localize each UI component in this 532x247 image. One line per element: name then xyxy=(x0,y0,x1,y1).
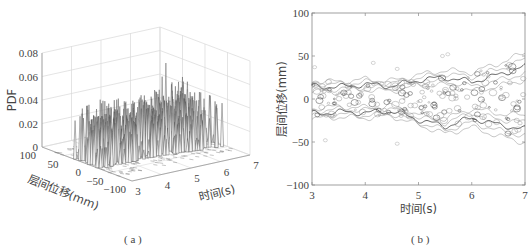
x-tick: 3 xyxy=(309,189,315,201)
z-tick: 0.04 xyxy=(19,94,39,106)
z-axis-label: PDF xyxy=(5,89,19,111)
x-tick: 3 xyxy=(135,185,141,197)
axes: 34567100500−50−100 xyxy=(286,7,528,201)
caption-a: ( a ) xyxy=(124,233,142,245)
z-tick: 0.06 xyxy=(19,71,39,83)
x-axis-label: 时间(s) xyxy=(197,182,236,205)
y-tick: −100 xyxy=(103,183,126,195)
x-tick: 7 xyxy=(253,159,259,171)
x-tick: 4 xyxy=(363,189,369,201)
figure-a-3d-surface: 00.020.040.060.08100500−50−10034567PDF层间… xyxy=(0,0,270,247)
y-tick: −100 xyxy=(286,179,309,191)
z-tick: 0.02 xyxy=(19,118,38,130)
x-tick: 5 xyxy=(416,189,422,201)
x-tick: 6 xyxy=(469,189,475,201)
x-tick: 6 xyxy=(224,166,230,178)
y-tick: 50 xyxy=(298,50,310,62)
y-tick: 0 xyxy=(304,93,310,105)
figure-b-contour: 34567100500−50−100时间(s)层间位移(mm) ( b ) xyxy=(270,0,532,247)
y-tick: 50 xyxy=(48,158,60,170)
y-tick: 0 xyxy=(76,166,82,178)
z-tick: 0.08 xyxy=(19,47,39,59)
x-axis-label: 时间(s) xyxy=(400,202,437,216)
caption-b: ( b ) xyxy=(411,233,429,245)
y-tick: 100 xyxy=(20,149,37,161)
y-axis-label: 层间位移(mm) xyxy=(275,61,289,136)
surface-plot: 00.020.040.060.08100500−50−10034567PDF层间… xyxy=(0,0,270,247)
x-tick: 5 xyxy=(194,172,200,184)
pdf-surface xyxy=(54,63,232,176)
y-tick: 100 xyxy=(293,7,310,19)
x-tick: 7 xyxy=(522,189,528,201)
y-tick: −50 xyxy=(292,136,310,148)
contour-lines xyxy=(312,53,526,146)
contour-plot: 34567100500−50−100时间(s)层间位移(mm) xyxy=(270,0,532,247)
y-tick: −50 xyxy=(86,175,104,187)
x-tick: 4 xyxy=(165,179,171,191)
